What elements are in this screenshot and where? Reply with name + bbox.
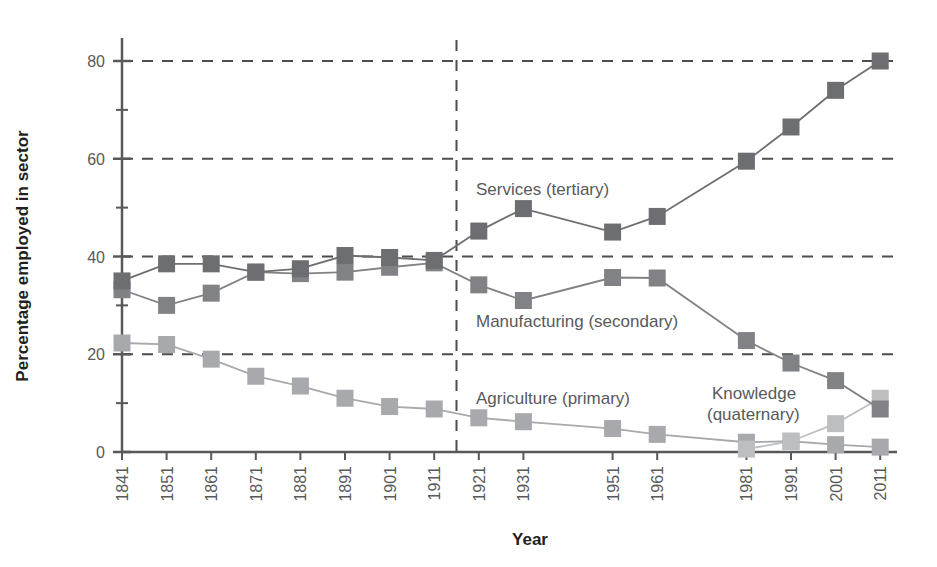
x-tick-label-1931: 1931 (515, 466, 532, 502)
data-point-marker (604, 420, 621, 437)
gridlines (122, 61, 897, 354)
data-point-marker (337, 247, 354, 264)
data-point-marker (604, 269, 621, 286)
data-point-marker (426, 400, 443, 417)
x-tick-label-1861: 1861 (203, 466, 220, 502)
data-point-marker (738, 332, 755, 349)
data-point-marker (114, 335, 131, 352)
data-point-marker (827, 82, 844, 99)
x-tick-label-1871: 1871 (248, 466, 265, 502)
data-point-marker (827, 436, 844, 453)
data-point-marker (515, 200, 532, 217)
y-axis-tick-labels: 806040200 (87, 53, 105, 461)
data-point-marker (872, 400, 889, 417)
x-tick-label-1891: 1891 (337, 466, 354, 502)
x-axis-tick-labels: 1841185118611871188118911901191119211931… (114, 466, 889, 502)
data-point-marker (470, 223, 487, 240)
data-point-marker (381, 249, 398, 266)
series-line-0 (122, 61, 880, 281)
data-point-marker (158, 255, 175, 272)
x-tick-label-1961: 1961 (649, 466, 666, 502)
y-tick-label-60: 60 (87, 151, 105, 168)
data-point-marker (783, 355, 800, 372)
chart-figure: 806040200 184118511861187118811891190119… (0, 0, 937, 567)
x-tick-label-1951: 1951 (605, 466, 622, 502)
annotation-knowledge-line1: Knowledge (712, 384, 796, 403)
x-tick-label-2011: 2011 (872, 466, 889, 501)
x-tick-label-1841: 1841 (114, 466, 131, 502)
data-point-marker (426, 252, 443, 269)
data-point-marker (827, 415, 844, 432)
x-tick-label-1921: 1921 (471, 466, 488, 502)
x-tick-label-1901: 1901 (382, 466, 399, 502)
y-axis-title: Percentage employed in sector (13, 130, 32, 382)
data-point-marker (783, 433, 800, 450)
x-axis-title: Year (512, 530, 548, 549)
data-point-marker (827, 372, 844, 389)
data-point-marker (738, 153, 755, 170)
x-tick-label-2001: 2001 (828, 466, 845, 502)
data-point-marker (872, 53, 889, 70)
data-point-marker (515, 292, 532, 309)
y-tick-label-20: 20 (87, 346, 105, 363)
data-point-marker (604, 224, 621, 241)
x-tick-label-1991: 1991 (783, 466, 800, 502)
data-point-marker (337, 390, 354, 407)
x-tick-label-1881: 1881 (292, 466, 309, 502)
data-point-marker (247, 264, 264, 281)
data-point-marker (783, 118, 800, 135)
data-point-marker (158, 336, 175, 353)
annotation-services: Services (tertiary) (476, 180, 609, 199)
data-point-marker (292, 260, 309, 277)
y-tick-label-80: 80 (87, 53, 105, 70)
data-point-marker (470, 276, 487, 293)
data-point-marker (292, 378, 309, 395)
employment-by-sector-line-chart: 806040200 184118511861187118811891190119… (0, 0, 937, 567)
data-point-marker (158, 297, 175, 314)
annotation-manufacturing: Manufacturing (secondary) (476, 312, 678, 331)
data-point-marker (381, 398, 398, 415)
data-point-marker (337, 264, 354, 281)
data-point-marker (649, 426, 666, 443)
x-tick-label-1851: 1851 (159, 466, 176, 502)
x-tick-label-1911: 1911 (426, 466, 443, 501)
x-tick-label-1981: 1981 (738, 466, 755, 502)
data-point-marker (515, 413, 532, 430)
data-point-marker (470, 409, 487, 426)
data-point-marker (203, 285, 220, 302)
data-point-marker (247, 368, 264, 385)
data-point-marker (738, 441, 755, 458)
data-point-marker (649, 208, 666, 225)
data-point-marker (203, 351, 220, 368)
data-point-marker (649, 270, 666, 287)
y-tick-label-40: 40 (87, 249, 105, 266)
data-point-marker (872, 439, 889, 456)
annotation-knowledge-line2: (quaternary) (707, 405, 800, 424)
annotation-agriculture: Agriculture (primary) (476, 389, 630, 408)
data-point-marker (114, 272, 131, 289)
data-point-marker (203, 255, 220, 272)
y-tick-label-0: 0 (96, 444, 105, 461)
